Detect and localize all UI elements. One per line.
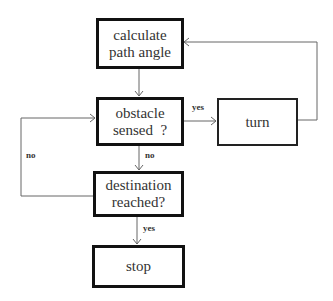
node-label: destination xyxy=(106,177,172,194)
node-label: calculate xyxy=(109,27,171,44)
calculate-path-angle-node: calculatepath angle xyxy=(96,18,184,69)
edge-label-no-loop: no xyxy=(26,150,36,160)
node-label: path angle xyxy=(109,44,171,61)
node-label: stop xyxy=(126,258,151,275)
edge-label-yes-stop: yes xyxy=(143,223,155,233)
obstacle-sensed-node: obstaclesensed ? xyxy=(96,97,184,146)
edge-label-no-down: no xyxy=(145,150,155,160)
edge-label-yes-turn: yes xyxy=(192,102,204,112)
node-label: obstacle xyxy=(113,105,167,122)
node-label: sensed ? xyxy=(113,122,167,139)
destination-reached-node: destinationreached? xyxy=(93,171,184,217)
turn-node: turn xyxy=(217,98,298,146)
stop-node: stop xyxy=(92,245,185,288)
node-label: reached? xyxy=(106,194,172,211)
node-label: turn xyxy=(245,114,269,131)
